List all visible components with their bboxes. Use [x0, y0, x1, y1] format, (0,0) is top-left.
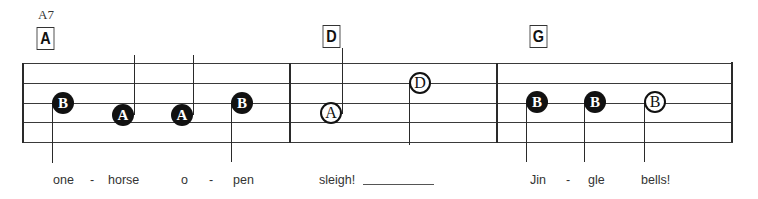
lyric-syllable: one	[53, 173, 74, 187]
barline-start	[22, 63, 24, 143]
stem	[409, 83, 410, 145]
stem	[644, 103, 645, 162]
staff-line-5	[22, 142, 733, 143]
stem	[134, 55, 135, 115]
lyric-syllable: horse	[108, 173, 139, 187]
stem	[526, 103, 527, 162]
lyric-extender-line	[363, 184, 434, 185]
note-a: A	[112, 104, 134, 126]
chord-box-g: G	[530, 25, 548, 48]
lyric-syllable: pen	[233, 173, 254, 187]
chord-box-d: D	[323, 25, 341, 48]
chord-name-a7: A7	[38, 7, 54, 23]
lyric-syllable: bells!	[641, 173, 670, 187]
stem	[193, 55, 194, 115]
lyric-syllable: gle	[588, 173, 605, 187]
lyric-hyphen: -	[209, 173, 213, 187]
lyric-hyphen: -	[90, 173, 94, 187]
stem	[52, 103, 53, 163]
note-b: B	[231, 92, 253, 114]
chord-box-a: A	[37, 27, 55, 50]
stem	[342, 48, 343, 114]
note-b: B	[52, 92, 74, 114]
staff-line-2	[22, 83, 733, 84]
stem	[584, 103, 585, 162]
lyric-syllable: Jin	[530, 173, 546, 187]
note-a-half: A	[320, 102, 342, 124]
staff-line-1	[22, 63, 733, 64]
note-a: A	[171, 104, 193, 126]
stem	[231, 103, 232, 162]
note-b-half: B	[644, 91, 666, 113]
lyric-hyphen: -	[566, 173, 570, 187]
lyric-syllable: o	[181, 173, 188, 187]
note-b: B	[526, 91, 548, 113]
barline-1	[289, 63, 291, 143]
barline-2	[496, 63, 498, 143]
barline-end	[731, 62, 733, 142]
note-d-half: D	[409, 72, 431, 94]
note-b: B	[584, 91, 606, 113]
lyric-syllable: sleigh!	[319, 173, 355, 187]
staff-line-3	[22, 103, 733, 104]
